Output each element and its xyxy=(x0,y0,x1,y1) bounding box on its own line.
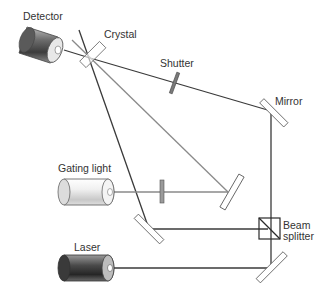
gating-light-icon xyxy=(58,179,114,205)
crystal-label: Crystal xyxy=(104,28,137,40)
laser-icon xyxy=(58,255,114,281)
mirror-label: Mirror xyxy=(275,95,302,107)
gating-light-label: Gating light xyxy=(58,162,111,174)
laser-label: Laser xyxy=(74,241,100,253)
shutter-label: Shutter xyxy=(160,57,194,69)
optical-diagram xyxy=(0,0,329,302)
detector-label: Detector xyxy=(23,10,63,22)
detector-icon xyxy=(16,25,66,64)
beam-splitter-label-line2: splitter xyxy=(283,230,314,242)
crystal-icon xyxy=(80,41,106,67)
mirror-bottom-right-icon xyxy=(256,252,287,283)
shutter-icon xyxy=(169,72,179,94)
gating-filter-icon xyxy=(160,180,164,203)
